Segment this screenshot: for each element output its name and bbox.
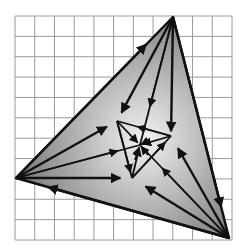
triangle-vector-diagram (0, 0, 242, 252)
